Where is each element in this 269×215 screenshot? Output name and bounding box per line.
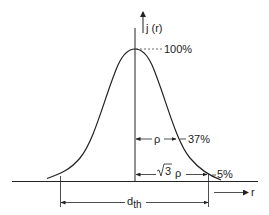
sqrt3-radicand: 3: [165, 165, 171, 177]
gaussian-curve: [47, 49, 221, 180]
sqrt3-rho-symbol: ρ: [175, 167, 181, 179]
rho-label: ρ: [154, 133, 160, 145]
y-axis-label: j (r): [145, 22, 163, 34]
level-5-label: 5%: [217, 168, 233, 180]
x-axis-label: r: [251, 186, 255, 198]
peak-label: 100%: [164, 43, 192, 55]
gaussian-diagram: j (r) 100% ρ 37% 3 ρ 5% dth r: [0, 0, 269, 215]
dth-label: dth: [127, 195, 141, 210]
level-37-label: 37%: [188, 133, 210, 145]
